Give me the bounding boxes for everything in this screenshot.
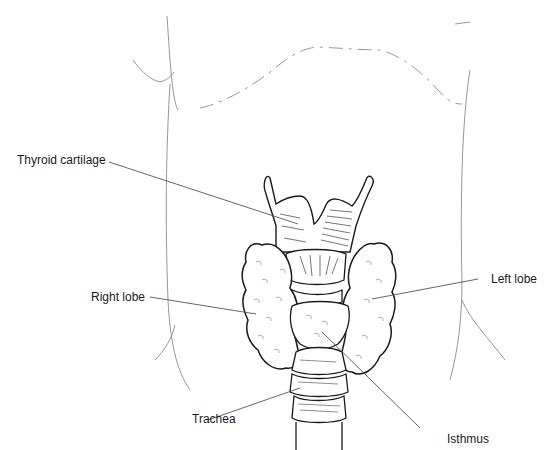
label-trachea: Trachea — [192, 412, 236, 426]
label-right-lobe: Right lobe — [91, 290, 145, 304]
isthmus-shape — [290, 302, 349, 350]
left-lobe-shape — [341, 243, 395, 374]
label-left-lobe: Left lobe — [491, 272, 537, 286]
label-isthmus: Isthmus — [447, 432, 489, 446]
trachea-shape — [290, 348, 348, 450]
thyroid-diagram: Thyroid cartilage Right lobe Left lobe T… — [0, 0, 550, 450]
anatomy-illustration — [0, 0, 550, 450]
label-thyroid-cartilage: Thyroid cartilage — [17, 153, 106, 167]
leader-right-lobe — [150, 297, 256, 314]
thyroid-cartilage-shape — [264, 176, 373, 252]
